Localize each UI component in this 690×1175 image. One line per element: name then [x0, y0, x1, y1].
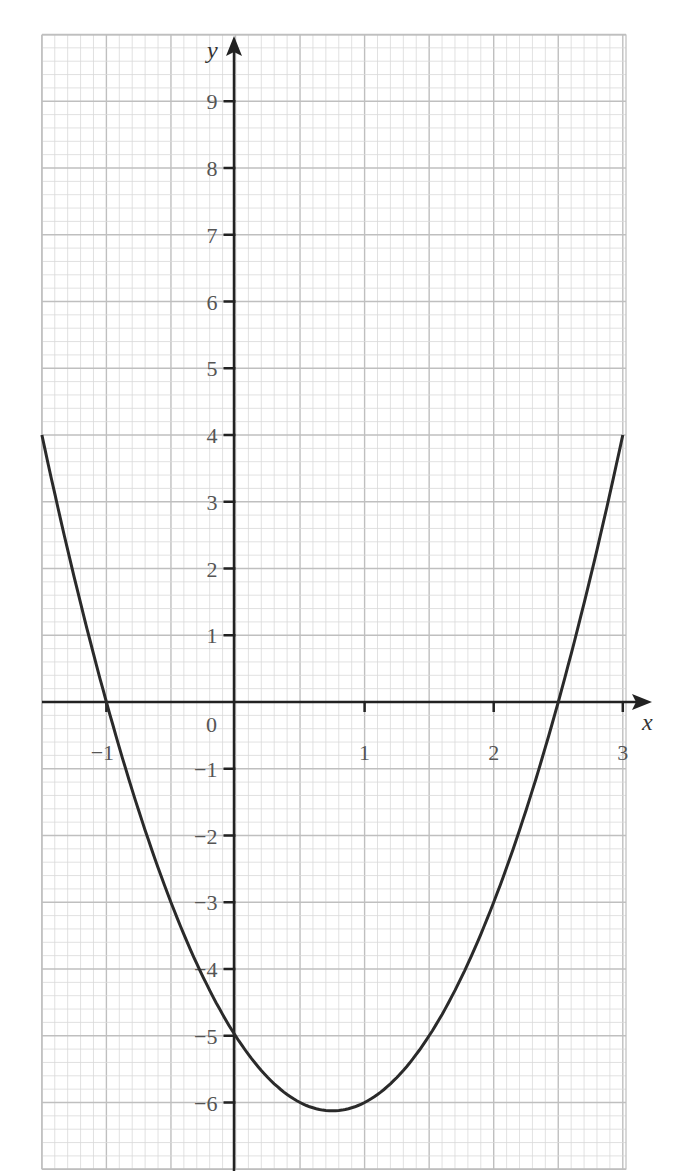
- x-tick-label: 1: [359, 740, 370, 765]
- y-tick-label: 1: [207, 623, 218, 648]
- y-tick-label: 8: [207, 156, 218, 181]
- y-tick-label: 2: [207, 557, 218, 582]
- y-tick-label: −5: [194, 1024, 217, 1049]
- x-tick-label: −1: [91, 740, 114, 765]
- y-tick-label: −3: [194, 890, 217, 915]
- y-tick-label: 5: [207, 356, 218, 381]
- y-tick-label: 9: [207, 89, 218, 114]
- y-tick-label: −1: [194, 757, 217, 782]
- x-axis-label: x: [641, 709, 653, 735]
- y-tick-label: −6: [194, 1091, 217, 1116]
- axes: [42, 36, 652, 1171]
- y-tick-label: 4: [207, 423, 218, 448]
- origin-label: 0: [206, 712, 217, 737]
- y-tick-label: −2: [194, 824, 217, 849]
- y-axis-label: y: [205, 37, 218, 63]
- x-tick-label: 2: [488, 740, 499, 765]
- y-tick-label: 6: [207, 290, 218, 315]
- x-tick-label: 3: [617, 740, 628, 765]
- y-tick-label: −4: [194, 957, 217, 982]
- graph-paper-grid: [42, 35, 626, 1170]
- y-tick-label: 7: [207, 223, 218, 248]
- quadratic-graph: −1123−6−5−4−3−2−1123456789 x y 0: [0, 0, 690, 1175]
- y-tick-label: 3: [207, 490, 218, 515]
